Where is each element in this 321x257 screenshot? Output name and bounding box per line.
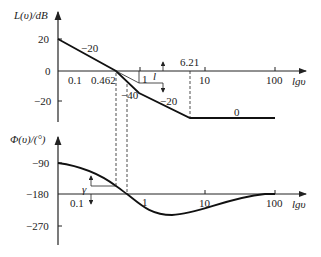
magnitude-y-label: L(υ)/dB [13, 9, 48, 22]
y-tick-0: 0 [45, 65, 51, 77]
x-tick-10: 10 [199, 74, 211, 86]
slope-label-2: −40 [121, 89, 139, 101]
magnitude-x-label: lgυ [292, 75, 306, 87]
y-tick-20: 20 [38, 33, 50, 45]
margin-symbol-l: l [153, 70, 156, 82]
x-tick-0.462: 0.462 [91, 74, 116, 86]
slope-label-3: −20 [160, 95, 178, 107]
phase-tick-neg90: −90 [32, 157, 50, 169]
phase-y-label: Φ(υ)/(°) [10, 133, 46, 146]
bode-svg: L(υ)/dB 20 0 −20 0.1 0.462 1 6.21 10 100… [0, 0, 321, 257]
phase-tick-neg180: −180 [26, 188, 49, 200]
x-tick-100: 100 [266, 74, 283, 86]
phase-tick-neg270: −270 [26, 220, 49, 232]
phase-x-tick-0.1: 0.1 [70, 197, 84, 209]
slope-label-1: −20 [81, 42, 99, 54]
phase-plot: Φ(υ)/(°) −90 −180 −270 0.1 1 10 100 lgυ … [10, 133, 306, 245]
magnitude-plot: L(υ)/dB 20 0 −20 0.1 0.462 1 6.21 10 100… [13, 9, 306, 122]
phase-x-tick-100: 100 [266, 197, 283, 209]
gamma-symbol: γ [82, 183, 87, 195]
x-tick-0.1: 0.1 [68, 74, 82, 86]
phase-curve [58, 163, 275, 215]
y-tick-neg20: −20 [34, 95, 52, 107]
x-tick-6.21: 6.21 [180, 56, 199, 68]
bode-diagram: L(υ)/dB 20 0 −20 0.1 0.462 1 6.21 10 100… [0, 0, 321, 257]
phase-x-label: lgυ [292, 198, 306, 210]
slope-label-4: 0 [234, 106, 240, 118]
